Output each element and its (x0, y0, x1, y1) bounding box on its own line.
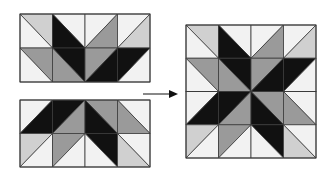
top-half-block-graphic (20, 14, 150, 82)
top-half-block (20, 14, 150, 82)
bottom-half-block (20, 100, 150, 167)
combined-star-block-graphic (186, 25, 316, 158)
right-arrow-icon (143, 86, 179, 104)
combined-star-block (186, 25, 316, 158)
bottom-half-block-graphic (20, 100, 150, 167)
